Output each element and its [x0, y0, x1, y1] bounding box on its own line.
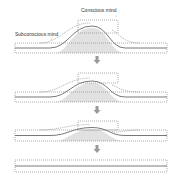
band-curve-dashed [112, 30, 140, 43]
subconscious-pointer-icon: ↓ [50, 37, 52, 41]
band-curve-dashed [112, 130, 140, 132]
band-curve-dashed [40, 125, 90, 131]
conscious-mind-label: Conscious mind [81, 7, 117, 13]
shaded-memory-region [55, 130, 125, 142]
memory-transfer-diagram [0, 0, 180, 189]
band-curve-dashed [112, 85, 140, 92]
down-arrow-icon [94, 56, 101, 64]
down-arrow-icon [94, 106, 101, 114]
shaded-memory-region [55, 28, 125, 53]
conscious-pointer-icon: ↓ [115, 14, 117, 18]
conscious-box [78, 121, 118, 130]
down-arrow-icon [94, 145, 101, 153]
